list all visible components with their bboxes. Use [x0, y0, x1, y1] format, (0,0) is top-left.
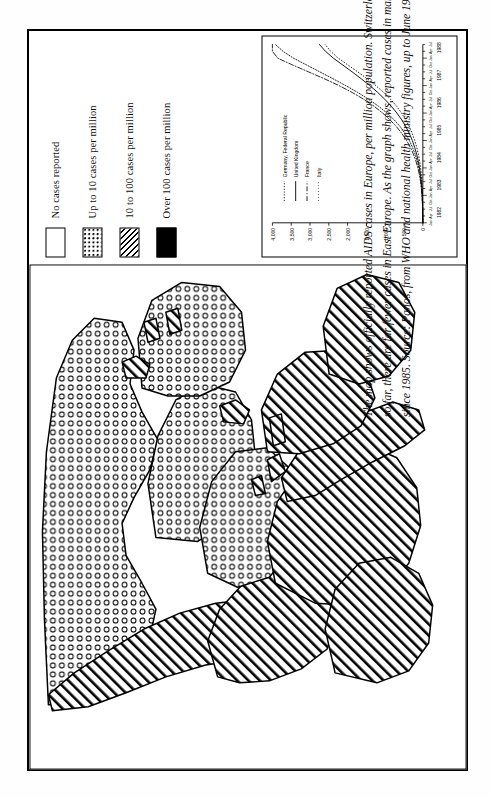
chart-quarter-label: Jan [429, 192, 433, 198]
chart-quarter-label: Jul [429, 97, 433, 102]
chart-ytick-label: 0 [420, 228, 426, 231]
chart-legend-label-1: United Kingdom [293, 141, 299, 178]
legend-label-over-100: Over 100 cases per million [161, 103, 173, 219]
chart-quarter-label: Jan [429, 138, 433, 144]
figure-caption: The map shows officially reported AIDS c… [360, 0, 416, 417]
chart-year-label: 1982 [437, 207, 442, 218]
chart-ytick-label: 3,000 [307, 228, 313, 241]
legend-label-up-to-10: Up to 10 cases per million [87, 105, 99, 218]
chart-quarter-label: Jan [429, 110, 433, 116]
page-canvas: No cases reported Up to 10 cases per mil… [0, 0, 490, 798]
map-legend: No cases reported Up to 10 cases per mil… [46, 138, 246, 258]
chart-year-label: 1988 [437, 42, 442, 53]
chart-quarter-label: Apr [429, 48, 433, 54]
legend-item-up-to-10: Up to 10 cases per million [83, 138, 103, 258]
chart-quarter-label: Apr [429, 212, 433, 218]
chart-year-label: 1987 [437, 70, 442, 81]
chart-year-label: 1984 [437, 152, 442, 163]
chart-quarter-label: Apr [429, 185, 433, 191]
legend-label-10-to-100: 10 to 100 cases per million [124, 102, 136, 218]
chart-quarter-label: Jul [429, 152, 433, 157]
chart-quarter-label: Jan [429, 220, 433, 226]
chart-quarter-label: Apr [429, 75, 433, 81]
caption-line-3: since 1985. Source: Panos, from WHO and … [398, 0, 417, 417]
chart-quarter-label: Oct [429, 145, 433, 151]
legend-swatch-no-cases [46, 228, 66, 258]
chart-quarter-label: Apr [429, 130, 433, 136]
chart-quarter-label: Jul [429, 179, 433, 184]
chart-year-label: 1985 [437, 124, 442, 135]
legend-swatch-10-to-100 [120, 228, 140, 258]
chart-quarter-label: Apr [429, 103, 433, 109]
caption-line-1: The map shows officially reported AIDS c… [360, 0, 379, 417]
chart-quarter-label: Jan [429, 165, 433, 171]
chart-quarter-label: Jul [429, 124, 433, 129]
chart-quarter-label: Jul [429, 42, 433, 47]
chart-quarter-label: Oct [429, 62, 433, 68]
chart-quarter-label: Apr [429, 157, 433, 163]
chart-ytick-label: 4,000 [270, 228, 276, 241]
chart-quarter-label: Oct [429, 172, 433, 178]
legend-item-10-to-100: 10 to 100 cases per million [120, 138, 140, 258]
legend-item-no-cases: No cases reported [46, 138, 66, 258]
chart-year-label: 1986 [437, 97, 442, 108]
chart-quarter-label: Jul [429, 207, 433, 212]
chart-quarter-label: Jul [429, 69, 433, 74]
chart-quarter-label: Oct [429, 90, 433, 96]
legend-label-no-cases: No cases reported [50, 142, 62, 219]
chart-legend-label-2: France [304, 161, 310, 177]
chart-quarter-label: Jan [429, 55, 433, 61]
legend-swatch-up-to-10 [83, 228, 103, 258]
chart-ytick-label: 2,000 [345, 228, 351, 241]
chart-quarter-label: Jan [429, 83, 433, 89]
chart-ytick-label: 3,500 [289, 228, 295, 241]
chart-year-label: 1983 [437, 179, 442, 190]
chart-quarter-label: Oct [429, 199, 433, 205]
chart-quarter-label: Oct [429, 117, 433, 123]
caption-line-2: so far, there are far fewer cases in Eas… [379, 0, 398, 417]
legend-swatch-over-100 [157, 228, 177, 258]
legend-item-over-100: Over 100 cases per million [157, 138, 177, 258]
chart-legend-label-0: Germany, Federal Republic [282, 114, 288, 177]
chart-ytick-label: 2,500 [326, 228, 332, 241]
chart-legend-label-3: Italy [316, 167, 322, 177]
page-frame: No cases reported Up to 10 cases per mil… [27, 29, 468, 771]
